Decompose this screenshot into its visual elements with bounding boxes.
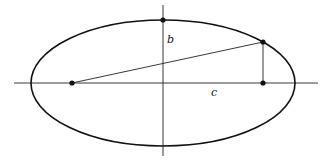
point-on-ellipse (260, 39, 265, 44)
left-focus-point (69, 80, 74, 85)
label-c: c (211, 86, 217, 99)
right-focus-point (260, 80, 265, 85)
ellipse-diagram: b c (0, 0, 333, 164)
focal-radius-line (72, 42, 263, 83)
top-vertex-point (160, 17, 165, 22)
label-b: b (167, 33, 174, 46)
